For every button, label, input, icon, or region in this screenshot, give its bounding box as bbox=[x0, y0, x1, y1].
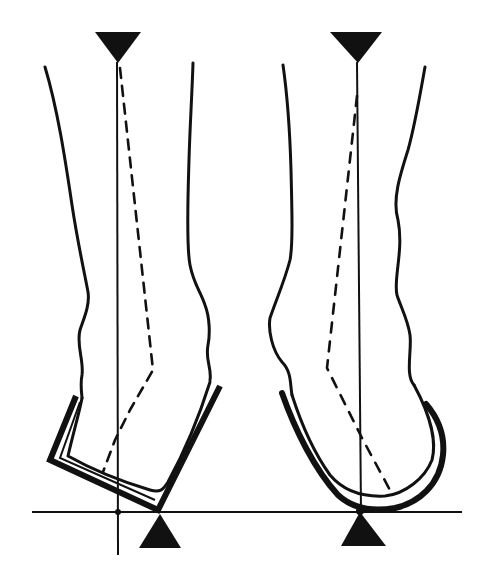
right-heel-outline bbox=[292, 385, 434, 496]
left-heel-outline bbox=[68, 382, 210, 491]
left-vertical-axis bbox=[117, 62, 118, 555]
left-leg-outline-lateral bbox=[188, 63, 211, 380]
right-vertical-axis bbox=[357, 62, 361, 512]
left-top-marker-icon bbox=[95, 32, 141, 63]
right-contact-point bbox=[356, 507, 364, 515]
left-load-marker-icon bbox=[139, 514, 181, 548]
left-axis-ground-point bbox=[115, 509, 121, 515]
right-load-marker-icon bbox=[341, 512, 386, 546]
left-leg-outline-medial bbox=[45, 67, 88, 398]
left-bone-axis-dashed bbox=[103, 68, 153, 472]
right-rounded-heel-cup bbox=[282, 393, 443, 509]
foot-alignment-diagram bbox=[0, 0, 485, 580]
right-leg-outline-lateral bbox=[396, 67, 425, 385]
left-foot-panel bbox=[45, 32, 220, 555]
right-foot-panel bbox=[270, 32, 444, 546]
right-leg-outline-medial bbox=[270, 65, 293, 395]
right-top-marker-icon bbox=[330, 32, 382, 63]
